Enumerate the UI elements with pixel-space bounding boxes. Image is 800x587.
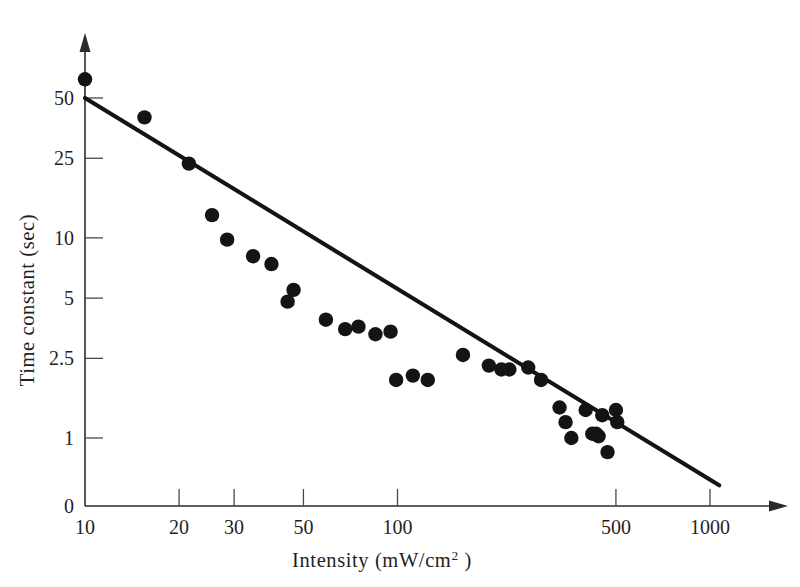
- data-point: [609, 403, 623, 417]
- data-point: [595, 408, 609, 422]
- x-axis-title-tail: ): [459, 549, 472, 572]
- data-point: [521, 360, 535, 374]
- y-tick-label-25: 25: [54, 147, 74, 169]
- data-point: [558, 415, 572, 429]
- data-point: [406, 368, 420, 382]
- x-axis-title: Intensity (mW/cm2 ): [292, 548, 472, 572]
- figure-background: [0, 0, 800, 587]
- x-tick-label-50: 50: [293, 516, 313, 538]
- data-point: [421, 373, 435, 387]
- x-tick-label-30: 30: [224, 516, 244, 538]
- data-point: [182, 156, 196, 170]
- data-point: [351, 319, 365, 333]
- x-tick-label-20: 20: [169, 516, 189, 538]
- data-point: [591, 429, 605, 443]
- x-tick-label-10: 10: [75, 516, 95, 538]
- time-constant-vs-intensity-figure: 50251052.510 102030501005001000 Time con…: [0, 0, 800, 587]
- data-point: [552, 400, 566, 414]
- data-point: [564, 431, 578, 445]
- data-point: [280, 294, 294, 308]
- data-point: [456, 348, 470, 362]
- data-point: [600, 445, 614, 459]
- x-tick-label-100: 100: [383, 516, 413, 538]
- y-tick-label-1: 1: [64, 427, 74, 449]
- y-tick-label-10: 10: [54, 227, 74, 249]
- data-point: [534, 373, 548, 387]
- data-point: [246, 249, 260, 263]
- data-point: [482, 358, 496, 372]
- x-tick-label-500: 500: [601, 516, 631, 538]
- y-tick-label-50: 50: [54, 87, 74, 109]
- y-tick-label-5: 5: [64, 287, 74, 309]
- data-point: [319, 313, 333, 327]
- data-point: [610, 415, 624, 429]
- x-tick-label-1000: 1000: [690, 516, 730, 538]
- y-axis-title: Time constant (sec): [16, 214, 39, 386]
- x-axis-title-main: Intensity (mW/cm: [292, 549, 451, 572]
- y-tick-label-2.5: 2.5: [49, 347, 74, 369]
- data-point: [78, 72, 92, 86]
- data-point: [338, 322, 352, 336]
- y-tick-label-0: 0: [64, 495, 74, 517]
- data-point: [383, 324, 397, 338]
- data-point: [137, 110, 151, 124]
- data-point: [389, 373, 403, 387]
- data-point: [264, 257, 278, 271]
- data-point: [205, 208, 219, 222]
- data-point: [578, 403, 592, 417]
- x-axis-title-superscript: 2: [451, 548, 458, 563]
- data-point: [220, 232, 234, 246]
- data-point: [502, 362, 516, 376]
- data-point: [368, 327, 382, 341]
